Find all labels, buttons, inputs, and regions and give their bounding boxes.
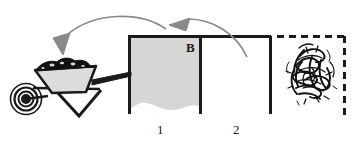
bin-1-fill-label: B [186, 41, 195, 54]
arrow-to-bin-one-head [169, 18, 190, 31]
diagram-canvas [0, 0, 361, 147]
compost-pile-icon [286, 44, 337, 105]
bin-1-number-label: 1 [157, 123, 164, 136]
arrow-to-wheelbarrow-head [53, 33, 70, 55]
wheelbarrow-icon [11, 58, 132, 116]
bin-2-number-label: 2 [233, 123, 240, 136]
wheelbarrow-handle [92, 72, 131, 85]
arrow-to-wheelbarrow-shaft [68, 16, 166, 34]
compost-bin-diagram: B 1 2 [0, 0, 361, 147]
